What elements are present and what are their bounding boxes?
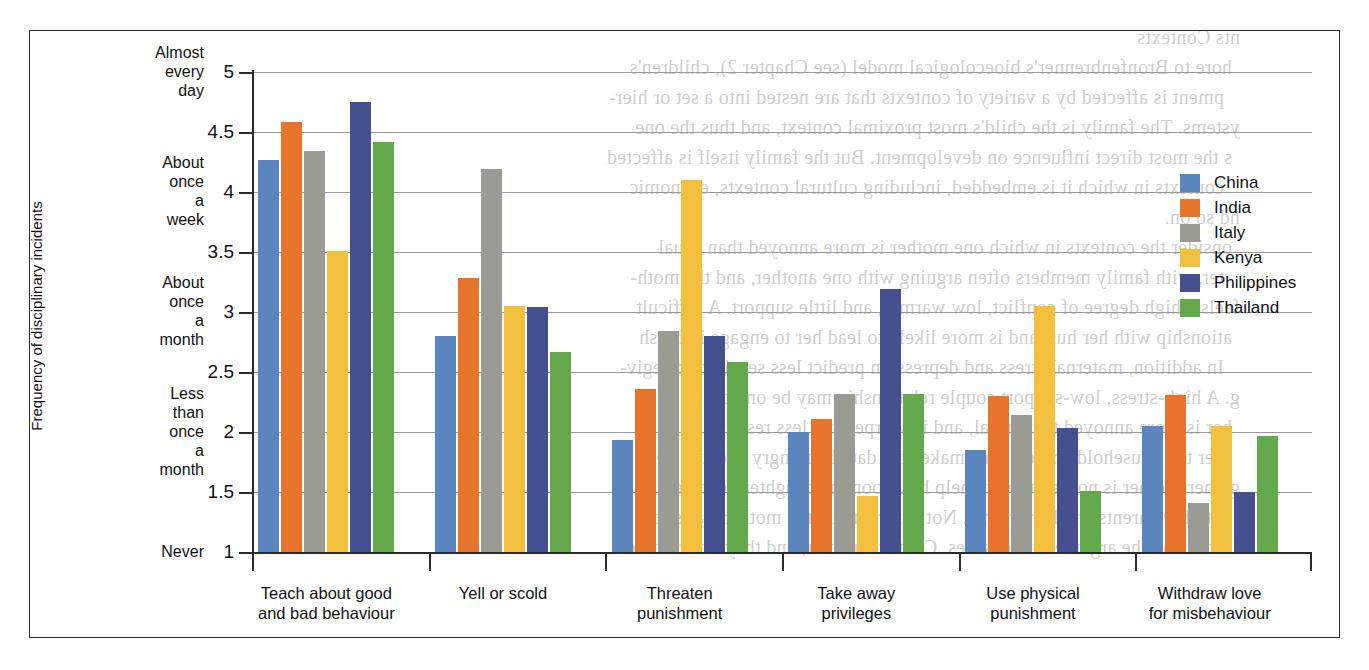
bar[interactable] xyxy=(1188,503,1209,552)
legend-item-kenya[interactable]: Kenya xyxy=(1180,245,1296,270)
x-axis-tick xyxy=(959,552,961,571)
bar[interactable] xyxy=(965,450,986,552)
x-axis-tick xyxy=(1310,552,1312,571)
y-axis-tick-label: 3.5 xyxy=(208,241,234,263)
y-axis-tick xyxy=(239,432,252,434)
bar[interactable] xyxy=(658,331,679,552)
bar[interactable] xyxy=(704,336,725,552)
y-axis-tick-label: 3 xyxy=(223,301,234,323)
bar-group xyxy=(788,72,924,552)
bar[interactable] xyxy=(1057,428,1078,552)
bar[interactable] xyxy=(1034,306,1055,552)
bar[interactable] xyxy=(350,102,371,552)
y-axis-tick-label: 1 xyxy=(223,541,234,563)
y-axis-tick xyxy=(239,552,252,554)
y-axis-category-label: Less than once a month xyxy=(160,385,204,479)
legend-label: India xyxy=(1214,198,1251,218)
legend-swatch-icon xyxy=(1180,249,1200,267)
bar[interactable] xyxy=(788,432,809,552)
bar[interactable] xyxy=(988,396,1009,552)
y-axis-spine xyxy=(252,70,254,554)
bar[interactable] xyxy=(373,142,394,552)
y-axis-tick xyxy=(239,132,252,134)
bar[interactable] xyxy=(504,306,525,552)
bar[interactable] xyxy=(304,151,325,552)
legend-swatch-icon xyxy=(1180,224,1200,242)
bar[interactable] xyxy=(258,160,279,552)
y-axis-category-label: Almost every day xyxy=(155,44,204,101)
bar-series-container xyxy=(252,72,1312,552)
bar[interactable] xyxy=(857,496,878,552)
y-axis-tick xyxy=(239,492,252,494)
bar[interactable] xyxy=(1165,395,1186,552)
bar[interactable] xyxy=(880,289,901,552)
legend-item-italy[interactable]: Italy xyxy=(1180,220,1296,245)
legend: ChinaIndiaItalyKenyaPhilippinesThailand xyxy=(1176,168,1300,322)
y-axis-tick xyxy=(239,192,252,194)
y-axis-tick-label: 4 xyxy=(223,181,234,203)
bar[interactable] xyxy=(435,336,456,552)
plot-area: 1Never1.52Less than once a month2.53Abou… xyxy=(252,72,1312,552)
y-axis-tick-label: 2.5 xyxy=(208,361,234,383)
bar[interactable] xyxy=(681,180,702,552)
x-axis-tick xyxy=(429,552,431,571)
bar[interactable] xyxy=(550,352,571,552)
y-axis-tick-label: 4.5 xyxy=(208,121,234,143)
bar[interactable] xyxy=(1211,426,1232,552)
bar[interactable] xyxy=(1234,492,1255,552)
legend-label: Thailand xyxy=(1214,298,1279,318)
y-axis-tick xyxy=(239,372,252,374)
x-axis-tick xyxy=(605,552,607,571)
bar[interactable] xyxy=(458,278,479,552)
bar[interactable] xyxy=(834,394,855,552)
bar[interactable] xyxy=(1011,415,1032,552)
legend-swatch-icon xyxy=(1180,174,1200,192)
bar-group xyxy=(435,72,571,552)
bar[interactable] xyxy=(527,307,548,552)
x-axis-tick xyxy=(1135,552,1137,571)
x-axis-tick xyxy=(252,552,254,571)
bar[interactable] xyxy=(1142,426,1163,552)
bar[interactable] xyxy=(727,362,748,552)
legend-swatch-icon xyxy=(1180,299,1200,317)
legend-item-philippines[interactable]: Philippines xyxy=(1180,270,1296,295)
bar[interactable] xyxy=(811,419,832,552)
bar-group xyxy=(612,72,748,552)
x-axis: Teach about good and bad behaviourYell o… xyxy=(252,552,1312,553)
x-axis-category-label: Withdraw love for misbehaviour xyxy=(1100,584,1320,624)
legend-swatch-icon xyxy=(1180,274,1200,292)
legend-label: Italy xyxy=(1214,223,1245,243)
y-axis-tick-label: 5 xyxy=(223,61,234,83)
bar[interactable] xyxy=(1257,436,1278,552)
legend-item-china[interactable]: China xyxy=(1180,170,1296,195)
bar[interactable] xyxy=(903,394,924,552)
bar[interactable] xyxy=(481,169,502,552)
y-axis-tick-label: 1.5 xyxy=(208,481,234,503)
bar[interactable] xyxy=(281,122,302,552)
bar-group xyxy=(965,72,1101,552)
y-axis-tick xyxy=(239,72,252,74)
legend-item-india[interactable]: India xyxy=(1180,195,1296,220)
y-axis-tick-label: 2 xyxy=(223,421,234,443)
bar-group xyxy=(258,72,394,552)
y-axis-tick xyxy=(239,252,252,254)
legend-item-thailand[interactable]: Thailand xyxy=(1180,295,1296,320)
legend-label: Philippines xyxy=(1214,273,1296,293)
bar[interactable] xyxy=(635,389,656,552)
y-axis-tick xyxy=(239,312,252,314)
legend-label: China xyxy=(1214,173,1258,193)
legend-swatch-icon xyxy=(1180,199,1200,217)
bar[interactable] xyxy=(612,440,633,552)
legend-label: Kenya xyxy=(1214,248,1262,268)
bar[interactable] xyxy=(327,251,348,552)
y-axis-category-label: About once a week xyxy=(162,154,204,230)
y-axis-category-label: Never xyxy=(161,543,204,562)
y-axis-title: Frequency of disciplinary incidents xyxy=(28,106,46,526)
y-axis-category-label: About once a month xyxy=(160,274,204,350)
bar[interactable] xyxy=(1080,491,1101,552)
x-axis-tick xyxy=(782,552,784,571)
